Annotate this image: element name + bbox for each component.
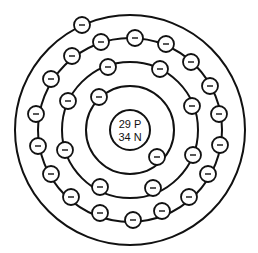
electron-icon: [100, 59, 116, 75]
electron-icon: [125, 212, 141, 228]
electron-icon: [30, 138, 46, 154]
electron-icon: [200, 166, 216, 182]
electron-icon: [74, 17, 90, 33]
electron-icon: [183, 54, 199, 70]
electron-icon: [211, 106, 227, 122]
electron-icon: [93, 34, 109, 50]
electron-icon: [63, 189, 79, 205]
electron-icon: [64, 48, 80, 64]
electron-icon: [60, 93, 76, 109]
nucleus-circle: [110, 110, 150, 150]
electron-icon: [149, 149, 165, 165]
electron-icon: [43, 71, 59, 87]
electron-icon: [57, 142, 73, 158]
atom-diagram: 29 P 34 N: [0, 0, 258, 253]
electron-icon: [185, 147, 201, 163]
electron-icon: [154, 203, 170, 219]
protons-label: 29 P: [119, 118, 142, 130]
nucleus: 29 P 34 N: [110, 110, 150, 150]
electron-icon: [127, 30, 143, 46]
electron-icon: [43, 166, 59, 182]
electron-icon: [28, 106, 44, 122]
electron-icon: [184, 98, 200, 114]
neutrons-label: 34 N: [118, 131, 141, 143]
electron-icon: [145, 180, 161, 196]
electron-icon: [202, 78, 218, 94]
electron-icon: [181, 189, 197, 205]
electron-icon: [212, 137, 228, 153]
electron-icon: [152, 61, 168, 77]
electron-icon: [92, 205, 108, 221]
electron-icon: [92, 179, 108, 195]
electron-icon: [91, 89, 107, 105]
electron-icon: [158, 36, 174, 52]
